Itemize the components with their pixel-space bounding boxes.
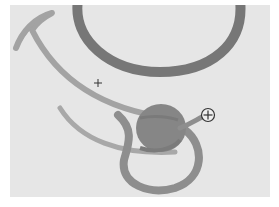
ellipse-ring: [77, 0, 240, 72]
add-cursor-icon: [202, 109, 215, 122]
upper-brush-stroke: [16, 13, 170, 118]
crosshair-icon: [94, 79, 102, 87]
illustration: [0, 0, 279, 207]
